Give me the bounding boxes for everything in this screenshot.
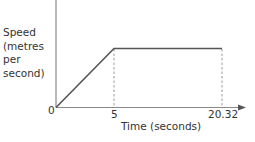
y-axis-label-line: Speed <box>3 26 45 40</box>
origin-label: 0 <box>48 104 55 116</box>
x-axis-label: Time (seconds) <box>121 120 201 132</box>
speed-line <box>56 49 222 108</box>
y-axis-label: Speed (metres per second) <box>3 26 45 80</box>
x-tick-20-32: 20.32 <box>208 108 238 120</box>
x-axis-arrowhead <box>238 105 246 111</box>
y-axis-label-line: per <box>3 53 45 67</box>
x-tick-5: 5 <box>111 108 118 120</box>
y-axis-label-line: (metres <box>3 40 45 54</box>
y-axis-label-line: second) <box>3 67 45 81</box>
